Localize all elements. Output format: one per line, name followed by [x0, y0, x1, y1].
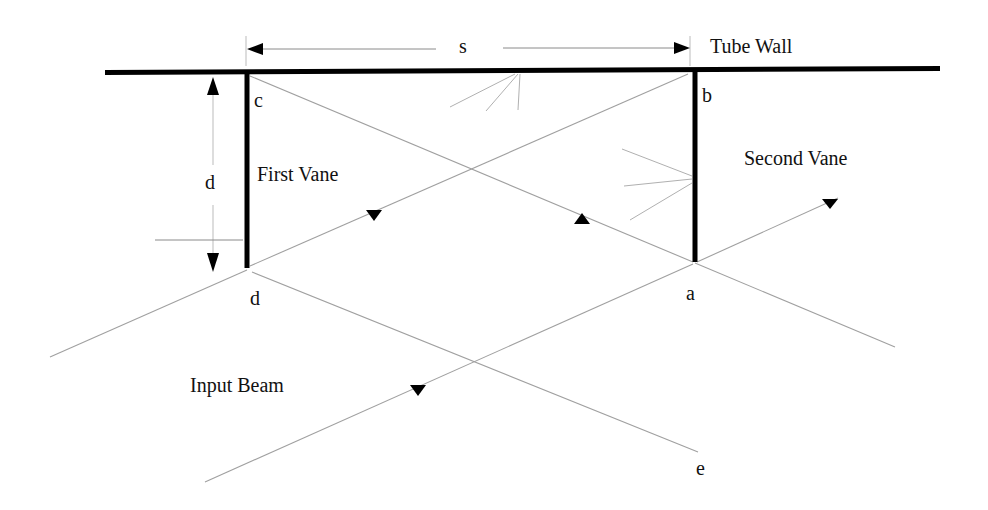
point-d-label: d	[250, 288, 260, 308]
d-dimension-label: d	[205, 172, 215, 192]
point-a-label: a	[686, 283, 695, 303]
scatter-ray	[518, 74, 520, 110]
s-left-arrowhead-icon	[247, 43, 263, 55]
input-beam-lower	[205, 264, 693, 482]
input-beam-upper	[50, 270, 247, 357]
input-beam-label: Input Beam	[190, 375, 284, 395]
scatter-ray	[622, 149, 692, 176]
beam-arrow-icon	[410, 385, 426, 396]
beam-arrow-icon	[574, 213, 590, 224]
beam-d-to-e	[252, 272, 698, 452]
point-b-label: b	[702, 85, 712, 105]
s-right-arrowhead-icon	[674, 42, 690, 54]
beam-a-to-right	[695, 263, 895, 347]
point-e-label: e	[696, 458, 705, 478]
beam-a-to-upper-right	[697, 198, 838, 262]
s-dimension	[246, 36, 690, 66]
scatter-rays-vane	[622, 149, 692, 220]
tube-wall-label: Tube Wall	[710, 36, 792, 56]
s-label: s	[459, 36, 467, 56]
vane-beam-diagram	[0, 0, 988, 510]
tube-wall	[105, 69, 940, 73]
beam-paths	[50, 74, 895, 482]
scatter-ray	[486, 74, 518, 111]
scatter-ray	[624, 179, 692, 186]
scatter-ray	[630, 183, 692, 220]
beam-arrow-icon	[366, 210, 382, 221]
second-vane-label: Second Vane	[744, 148, 848, 168]
d-down-arrowhead-icon	[207, 253, 219, 272]
d-up-arrowhead-icon	[207, 77, 219, 95]
scatter-ray	[450, 74, 515, 107]
d-dimension	[155, 77, 243, 272]
first-vane-label: First Vane	[257, 164, 338, 184]
point-c-label: c	[254, 90, 263, 110]
scatter-rays-wall	[450, 74, 520, 111]
